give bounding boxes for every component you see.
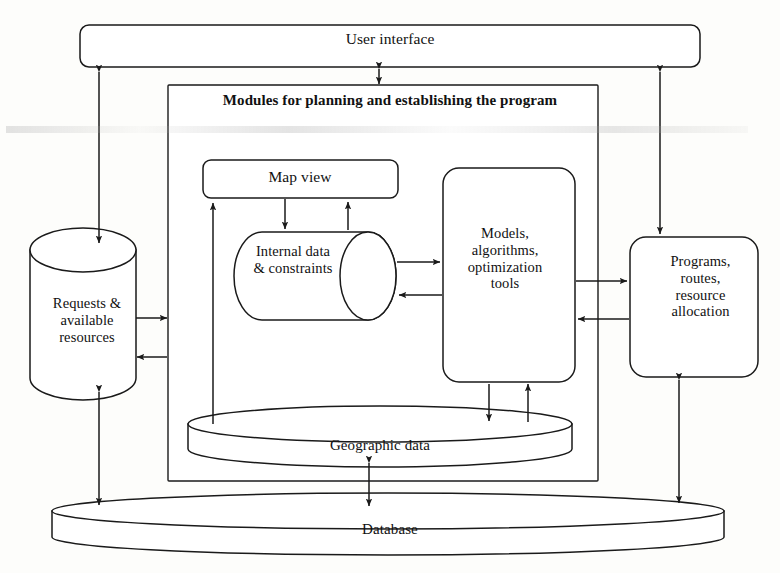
node-map-view [203,160,398,198]
node-internal-data [234,232,396,320]
architecture-diagram: User interface Modules for planning and … [0,0,780,573]
diagram-vector-layer [0,0,780,573]
node-programs [630,237,758,377]
node-geographic-data [188,406,572,467]
node-database [52,493,724,555]
node-requests [30,228,136,400]
node-user-interface [80,25,700,67]
node-models [443,168,575,382]
